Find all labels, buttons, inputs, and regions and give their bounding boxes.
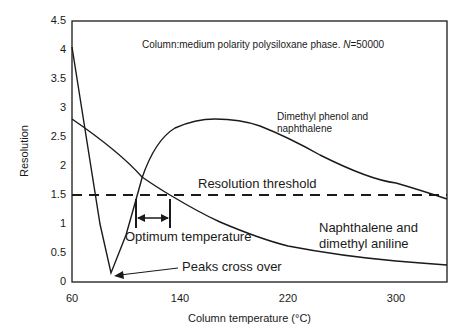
- optimum-arrow-left-head: [137, 214, 145, 222]
- plot-svg: [0, 0, 462, 334]
- chart: 4.5 4 3.5 3 2.5 2 1.5 1 0.5 0 60 140 220…: [0, 0, 462, 334]
- series1-label-line1: Dimethyl phenol and: [277, 111, 368, 123]
- y-axis-title: Resolution: [18, 121, 30, 181]
- crossover-label: Peaks cross over: [182, 259, 282, 274]
- y-tick-4-5: 4.5: [44, 14, 66, 26]
- column-note-text: Column:medium polarity polysiloxane phas…: [142, 39, 343, 50]
- y-tick-3: 3: [44, 101, 66, 113]
- y-tick-1-5: 1.5: [44, 188, 66, 200]
- x-tick-300: 300: [376, 292, 416, 304]
- y-tick-4: 4: [44, 43, 66, 55]
- series2-label: Naphthalene and dimethyl aniline: [319, 220, 418, 252]
- y-tick-2-5: 2.5: [44, 130, 66, 142]
- y-tick-1: 1: [44, 217, 66, 229]
- y-tick-3-5: 3.5: [44, 72, 66, 84]
- series1-label: Dimethyl phenol and naphthalene: [277, 111, 368, 135]
- x-axis-title: Column temperature (°C): [188, 312, 311, 324]
- column-note-value: =50000: [350, 39, 384, 50]
- series1-label-line2: naphthalene: [277, 123, 368, 135]
- y-tick-2: 2: [44, 159, 66, 171]
- optimum-label: Optimum temperature: [125, 229, 251, 244]
- x-tick-140: 140: [160, 292, 200, 304]
- y-tick-0: 0: [44, 275, 66, 287]
- x-tick-220: 220: [268, 292, 308, 304]
- optimum-arrow-right-head: [161, 214, 169, 222]
- crossover-arrow-shaft: [120, 268, 178, 275]
- crossover-arrow-head: [114, 271, 124, 279]
- y-tick-0-5: 0.5: [44, 246, 66, 258]
- column-note: Column:medium polarity polysiloxane phas…: [142, 39, 384, 50]
- x-tick-60: 60: [52, 292, 92, 304]
- series2-label-line2: dimethyl aniline: [319, 236, 418, 252]
- threshold-label: Resolution threshold: [198, 176, 317, 191]
- series2-label-line1: Naphthalene and: [319, 220, 418, 236]
